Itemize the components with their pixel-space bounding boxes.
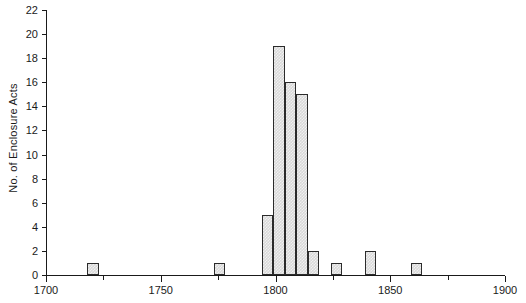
- histogram-bar: [87, 263, 98, 275]
- x-tick-mark: [505, 276, 506, 282]
- y-tick-label: 8: [18, 173, 38, 185]
- histogram-bar: [273, 46, 284, 275]
- x-minor-tick-mark: [103, 276, 104, 280]
- y-tick-mark: [42, 179, 47, 180]
- x-tick-label: 1700: [34, 284, 58, 296]
- x-tick-mark: [276, 276, 277, 282]
- y-tick-mark: [42, 130, 47, 131]
- y-tick-label: 16: [18, 76, 38, 88]
- y-tick-mark: [42, 251, 47, 252]
- y-tick-label: 18: [18, 52, 38, 64]
- x-minor-tick-mark: [218, 276, 219, 280]
- x-tick-mark: [46, 276, 47, 282]
- y-axis-label-container: No. of Enclosure Acts: [0, 0, 26, 275]
- x-tick-label: 1900: [493, 284, 517, 296]
- histogram-bar: [331, 263, 342, 275]
- histogram-bar: [214, 263, 225, 275]
- histogram-bar: [296, 94, 307, 275]
- y-tick-mark: [42, 10, 47, 11]
- x-tick-mark: [161, 276, 162, 282]
- histogram-bar: [262, 215, 273, 275]
- x-minor-tick-mark: [333, 276, 334, 280]
- y-tick-label: 4: [18, 221, 38, 233]
- y-tick-label: 10: [18, 149, 38, 161]
- histogram-bar: [411, 263, 422, 275]
- histogram-bar: [365, 251, 376, 275]
- y-tick-label: 12: [18, 124, 38, 136]
- x-tick-label: 1800: [263, 284, 287, 296]
- y-tick-mark: [42, 203, 47, 204]
- y-tick-mark: [42, 227, 47, 228]
- y-tick-label: 2: [18, 245, 38, 257]
- y-tick-mark: [42, 34, 47, 35]
- histogram-chart: No. of Enclosure Acts 024681012141618202…: [0, 0, 526, 303]
- x-tick-mark: [390, 276, 391, 282]
- y-tick-mark: [42, 155, 47, 156]
- x-tick-label: 1850: [378, 284, 402, 296]
- y-tick-label: 22: [18, 4, 38, 16]
- y-tick-mark: [42, 82, 47, 83]
- y-tick-mark: [42, 58, 47, 59]
- histogram-bar: [308, 251, 319, 275]
- y-tick-label: 20: [18, 28, 38, 40]
- y-tick-label: 0: [18, 269, 38, 281]
- y-tick-mark: [42, 106, 47, 107]
- y-tick-label: 6: [18, 197, 38, 209]
- y-tick-label: 14: [18, 100, 38, 112]
- x-minor-tick-mark: [448, 276, 449, 280]
- histogram-bar: [285, 82, 296, 275]
- y-axis-line: [46, 10, 47, 275]
- x-tick-label: 1750: [149, 284, 173, 296]
